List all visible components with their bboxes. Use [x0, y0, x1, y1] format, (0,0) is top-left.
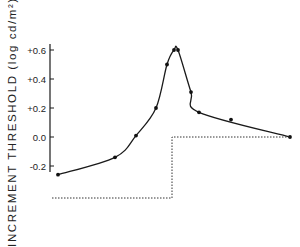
data-point: [172, 48, 176, 52]
y-axis: +0.6+0.4+0.20.0-0.2: [27, 44, 54, 172]
data-point: [56, 173, 60, 177]
background-step-line: [52, 137, 290, 198]
y-tick-label: +0.4: [27, 74, 46, 85]
data-point: [134, 134, 138, 138]
data-point: [229, 118, 233, 122]
threshold-curve: [58, 46, 290, 174]
data-points: [56, 48, 292, 177]
data-point: [197, 110, 201, 114]
data-point: [154, 106, 158, 110]
y-tick-label: 0.0: [33, 132, 46, 143]
data-point: [176, 48, 180, 52]
data-point: [113, 155, 117, 159]
y-tick-label: +0.2: [27, 103, 46, 114]
y-tick-label: -0.2: [30, 161, 46, 172]
data-point: [165, 63, 169, 67]
data-point: [189, 90, 193, 94]
y-tick-label: +0.6: [27, 45, 46, 56]
